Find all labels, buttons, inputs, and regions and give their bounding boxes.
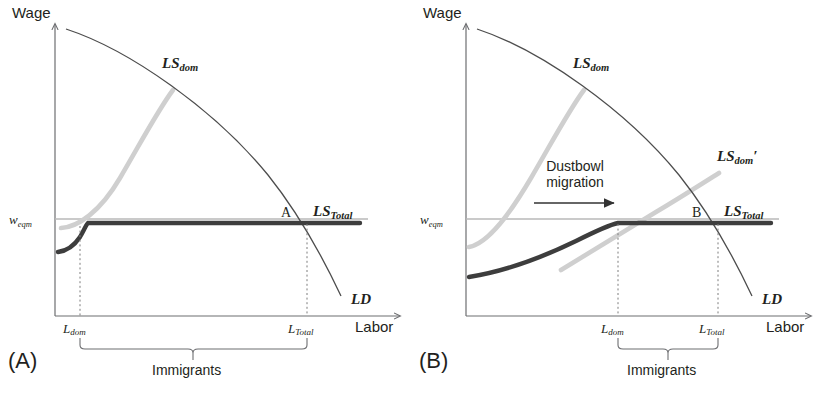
ls-total-label-base-a: LS xyxy=(313,203,331,219)
ls-dom-label-base-a: LS xyxy=(162,55,180,71)
ls-total-label-sub-a: Total xyxy=(331,210,353,221)
ls-dom-curve-a xyxy=(61,90,173,228)
panel-tag-b: (B) xyxy=(419,348,448,374)
ls-dom-prime-base-b: LS xyxy=(717,148,735,164)
ld-curve-a xyxy=(66,29,341,296)
ls-total-label-sub-b: Total xyxy=(742,210,764,221)
ld-label-b: LD xyxy=(762,291,782,308)
l-total-tick-a: LTotal xyxy=(288,321,313,337)
panel-tag-a: (A) xyxy=(8,348,37,374)
panel-a-plot xyxy=(0,0,411,394)
immigrants-bracket-b xyxy=(618,338,718,353)
w-eqm-label-a: weqm xyxy=(9,212,32,229)
x-axis-title-a: Labor xyxy=(355,318,393,335)
ls-total-curve-a xyxy=(58,223,360,252)
l-dom-tick-b: Ldom xyxy=(601,321,624,337)
l-total-tick-b: LTotal xyxy=(699,321,724,337)
y-axis-title-b: Wage xyxy=(423,4,462,21)
ls-total-label-base-b: LS xyxy=(724,203,742,219)
ls-dom-label-a: LSdom xyxy=(162,55,198,73)
l-total-sub-a: Total xyxy=(295,327,313,337)
ld-label-a: LD xyxy=(351,291,371,308)
ls-total-label-a: LSTotal xyxy=(313,203,352,221)
dustbowl-annotation-line1: Dustbowl xyxy=(529,158,621,174)
equilibrium-point-label-b: B xyxy=(692,205,701,221)
immigrants-bracket-a xyxy=(80,338,307,353)
w-eqm-base-a: w xyxy=(9,212,18,227)
l-dom-sub-b: dom xyxy=(608,327,624,337)
ls-dom-label-sub-b: dom xyxy=(591,62,610,73)
w-eqm-sub-b: eqm xyxy=(429,219,443,229)
l-dom-tick-a: Ldom xyxy=(63,321,86,337)
ls-dom-prime-mark-b: ′ xyxy=(753,148,757,164)
w-eqm-base-b: w xyxy=(420,212,429,227)
w-eqm-sub-a: eqm xyxy=(18,219,32,229)
dustbowl-annotation-line2: migration xyxy=(529,174,621,190)
immigrants-label-b: Immigrants xyxy=(627,362,696,378)
w-eqm-label-b: weqm xyxy=(420,212,443,229)
equilibrium-point-label-a: A xyxy=(281,205,291,221)
ls-dom-prime-label-b: LSdom′ xyxy=(717,148,757,166)
figure-root: Wage Labor LSdom LSTotal LD A weqm Ldom … xyxy=(0,0,822,394)
immigrants-label-a: Immigrants xyxy=(152,362,221,378)
y-axis-title-a: Wage xyxy=(12,4,51,21)
l-dom-sub-a: dom xyxy=(70,327,86,337)
ls-total-curve-b xyxy=(469,223,771,277)
panel-b: Wage Labor LSdom LSdom′ LSTotal LD B weq… xyxy=(411,0,822,394)
x-axis-title-b: Labor xyxy=(766,318,804,335)
ls-dom-label-b: LSdom xyxy=(573,55,609,73)
ls-dom-label-sub-a: dom xyxy=(180,62,199,73)
dustbowl-migration-annotation-b: Dustbowl migration xyxy=(529,158,621,190)
panel-a: Wage Labor LSdom LSTotal LD A weqm Ldom … xyxy=(0,0,411,394)
l-total-sub-b: Total xyxy=(706,327,724,337)
ls-dom-label-base-b: LS xyxy=(573,55,591,71)
ls-total-label-b: LSTotal xyxy=(724,203,763,221)
ls-dom-prime-sub-b: dom xyxy=(735,155,754,166)
